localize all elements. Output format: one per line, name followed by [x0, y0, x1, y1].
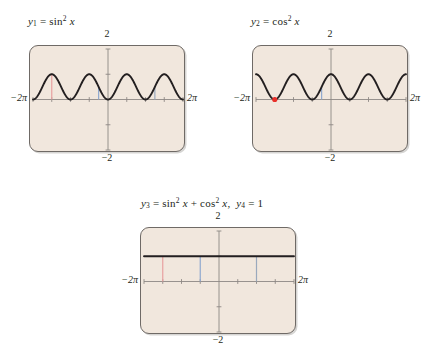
panel-1-xmax-label: 2π [187, 92, 197, 103]
panel-2-xmin-label: −2π [233, 92, 250, 103]
panel-3-plot [141, 228, 296, 334]
panel-2-title: y2 = cos2 x [251, 14, 300, 28]
panel-2-plot [253, 46, 408, 152]
panel-2-xmax-label: 2π [410, 92, 420, 103]
panel-3-ymax-label: 2 [216, 210, 221, 221]
panel-2-ymin-label: −2 [325, 152, 336, 163]
panel-2-ymax-label: 2 [328, 28, 333, 39]
panel-1-title: y1 = sin2 x [28, 14, 75, 28]
panel-3-xmax-label: 2π [298, 274, 308, 285]
panel-sin-squared: y1 = sin2 x 2 −2 −2π 2π [0, 0, 210, 180]
panel-1-ymin-label: −2 [102, 152, 113, 163]
panel-1-screen [29, 45, 185, 152]
panel-1-plot [30, 46, 185, 152]
panel-1-xmin-label: −2π [10, 92, 27, 103]
panel-1-ymax-label: 2 [105, 28, 110, 39]
panel-3-xmin-label: −2π [121, 274, 138, 285]
panel-2-screen [252, 45, 408, 152]
panel-cos-squared: y2 = cos2 x 2 −2 −2π 2π [225, 0, 447, 180]
panel-3-title: y3 = sin2 x + cos2 x, y4 = 1 [141, 196, 263, 210]
panel-3-ymin-label: −2 [213, 334, 224, 345]
panel-3-screen [140, 227, 296, 334]
panel-pythagorean-identity: y3 = sin2 x + cos2 x, y4 = 1 2 −2 −2π 2π [110, 190, 340, 362]
